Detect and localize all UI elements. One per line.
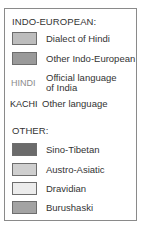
legend-label-line2: of India	[46, 83, 77, 93]
other-indo-european-swatch	[12, 52, 37, 65]
dravidian-swatch	[12, 182, 37, 195]
legend-label: Austro-Asiatic	[46, 165, 105, 175]
dialect-of-hindi-swatch	[12, 32, 37, 45]
legend-label: Burushaski	[46, 203, 93, 213]
legend-label: Sino-Tibetan	[46, 145, 100, 155]
legend-label: Other Indo-European	[46, 54, 135, 64]
official-language-sample: HINDI	[11, 78, 36, 88]
austro-asiatic-swatch	[12, 163, 37, 176]
burushaski-swatch	[12, 201, 37, 214]
legend-label: Dravidian	[46, 184, 86, 194]
sino-tibetan-swatch	[12, 143, 37, 156]
legend-label: Dialect of Hindi	[46, 34, 110, 44]
other-language-sample: KACHI	[10, 99, 38, 109]
indo-european-heading: INDO-EUROPEAN:	[12, 16, 96, 27]
other-heading: OTHER:	[12, 125, 49, 136]
map-legend: INDO-EUROPEAN: Dialect of Hindi Other In…	[4, 8, 137, 221]
legend-label: Other language	[42, 99, 108, 109]
